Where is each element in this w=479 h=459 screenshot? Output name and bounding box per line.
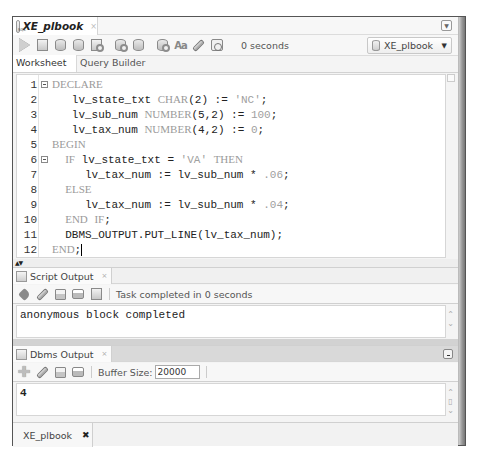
connection-name: XE_plbook <box>384 40 438 51</box>
keyword: ELSE <box>65 183 91 195</box>
code-text: ; <box>283 199 290 211</box>
save-icon[interactable] <box>53 288 67 301</box>
tab-query-builder[interactable]: Query Builder <box>77 55 156 72</box>
identifier: lv_tax_num <box>52 124 144 136</box>
close-icon[interactable]: ✖ <box>82 430 90 440</box>
close-icon[interactable]: × <box>102 350 108 358</box>
code-line-12: 12 END; <box>17 242 445 257</box>
code-line-6: 6 IF lv_state_txt = 'VA' THEN <box>17 152 445 167</box>
document-tab-xe-plbook[interactable]: XE_plbook × <box>13 17 98 35</box>
unshared-sql-icon[interactable] <box>155 38 170 52</box>
to-upper-lower-icon[interactable]: Aa <box>173 38 188 52</box>
line-number: 7 <box>17 169 39 181</box>
keyword: CHAR <box>158 93 189 105</box>
dbms-output-text[interactable]: 4 <box>16 383 446 416</box>
minimize-button[interactable] <box>443 349 453 359</box>
close-icon[interactable]: × <box>102 272 108 280</box>
tab-label: XE_plbook <box>23 430 72 441</box>
tab-worksheet[interactable]: Worksheet <box>13 55 77 72</box>
code-text: ; <box>271 109 278 121</box>
keyword: NUMBER <box>144 108 191 120</box>
pin-icon[interactable] <box>17 288 31 301</box>
run-statement-icon[interactable] <box>17 38 32 52</box>
clear-icon[interactable] <box>191 38 206 52</box>
fold-toggle-icon[interactable] <box>40 155 49 164</box>
connection-select[interactable]: XE_plbook ▼ <box>367 37 452 54</box>
line-number: 12 <box>17 244 39 256</box>
keyword: DECLARE <box>52 78 103 90</box>
identifier: lv_state_txt <box>52 94 158 106</box>
script-output-toolbar: Task completed in 0 seconds <box>13 285 458 304</box>
tab-label: Dbms Output <box>30 349 94 360</box>
code-text: (5,2) := <box>191 109 250 121</box>
code-text: (4,2) := <box>191 124 250 136</box>
close-tab-icon[interactable]: × <box>90 22 97 31</box>
line-number: 10 <box>17 214 39 226</box>
line-number: 9 <box>17 199 39 211</box>
commit-icon[interactable] <box>53 38 68 52</box>
tab-xe-plbook-output[interactable]: XE_plbook ✖ <box>13 423 93 447</box>
indent <box>52 184 65 196</box>
code-line-10: 10 END IF; <box>17 212 445 227</box>
dbms-output-toolbar: ✚ Buffer Size: <box>13 363 458 382</box>
execution-time: 0 seconds <box>241 40 289 51</box>
code-line-1: 1 DECLARE <box>17 77 445 92</box>
line-number: 11 <box>17 229 39 241</box>
indent <box>52 154 65 166</box>
worksheet-toolbar: Aa 0 seconds XE_plbook ▼ <box>13 35 458 56</box>
run-script-icon[interactable] <box>35 38 50 52</box>
code-text: ; <box>75 244 82 256</box>
number-literal: 0 <box>251 124 258 136</box>
code-line-9: 9 lv_tax_num := lv_sub_num * .04; <box>17 197 445 212</box>
number-literal: .06 <box>263 169 283 181</box>
enable-output-icon[interactable]: ✚ <box>17 366 31 379</box>
keyword: IF <box>65 153 75 165</box>
number-literal: 100 <box>251 109 271 121</box>
script-output-text[interactable]: anonymous block completed <box>16 305 446 338</box>
tab-list-button[interactable]: ▼ <box>441 20 452 31</box>
line-number: 2 <box>17 94 39 106</box>
sql-tuning-icon[interactable] <box>131 38 146 52</box>
code-text: lv_tax_num := lv_sub_num * <box>52 199 263 211</box>
code-text: ; <box>258 124 265 136</box>
code-line-11: 11 DBMS_OUTPUT.PUT_LINE(lv_tax_num); <box>17 227 445 242</box>
fold-toggle-icon[interactable] <box>40 80 49 89</box>
keyword: END <box>52 243 75 255</box>
line-number: 1 <box>17 79 39 91</box>
clear-icon[interactable] <box>35 366 49 379</box>
clear-pane-icon[interactable] <box>89 288 103 301</box>
line-number: 5 <box>17 139 39 151</box>
expand-collapse-arrows-icon[interactable]: ▲▼ <box>15 259 22 266</box>
output-scrollbar[interactable]: ⌃▯⌄ <box>446 388 455 415</box>
buffer-size-input[interactable] <box>155 365 200 379</box>
line-number: 3 <box>17 109 39 121</box>
code-editor[interactable]: 1 DECLARE 2 lv_state_txt CHAR(2) := 'NC'… <box>16 74 446 258</box>
sql-history-icon[interactable] <box>209 38 224 52</box>
autotrace-icon[interactable] <box>113 38 128 52</box>
sql-worksheet-icon <box>16 20 20 33</box>
tab-script-output[interactable]: Script Output × <box>13 268 112 284</box>
panel-splitter[interactable]: ▲▼ <box>13 259 458 267</box>
code-text: ; <box>261 94 268 106</box>
number-literal: .04 <box>263 199 283 211</box>
save-icon[interactable] <box>53 366 67 379</box>
code-text: (2) := <box>188 94 234 106</box>
chevron-down-icon: ▼ <box>442 42 447 50</box>
identifier: lv_sub_num <box>52 109 144 121</box>
keyword: END <box>65 213 88 225</box>
output-scrollbar[interactable]: ⌃⌄ <box>446 310 455 328</box>
print-icon[interactable] <box>71 366 85 379</box>
print-icon[interactable] <box>71 288 85 301</box>
keyword: IF <box>94 213 104 225</box>
clear-icon[interactable] <box>35 288 49 301</box>
keyword: THEN <box>214 153 243 165</box>
dbms-output-tabbar: Dbms Output × <box>13 345 458 362</box>
code-line-4: 4 lv_tax_num NUMBER(4,2) := 0; <box>17 122 445 137</box>
worksheet-subtabs: Worksheet Query Builder <box>13 56 458 73</box>
tab-dbms-output[interactable]: Dbms Output × <box>13 346 112 362</box>
dbms-output-icon <box>16 349 27 360</box>
code-line-8: 8 ELSE <box>17 182 445 197</box>
explain-plan-icon[interactable] <box>89 38 104 52</box>
task-status: Task completed in 0 seconds <box>116 289 253 300</box>
rollback-icon[interactable] <box>71 38 86 52</box>
